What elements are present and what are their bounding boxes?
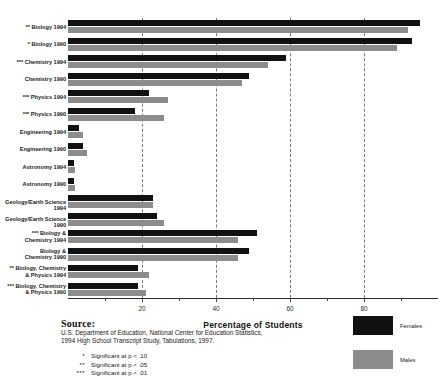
source-line-1: U.S. Department of Education, National C…: [61, 329, 341, 337]
legend-label-females: Females: [400, 323, 422, 329]
bar-females: [68, 90, 149, 96]
bar-males: [68, 167, 75, 173]
bar-females: [68, 230, 257, 236]
x-tick-minor: [290, 298, 291, 301]
bar-row: [68, 195, 438, 208]
bar-females: [68, 265, 138, 271]
bar-females: [68, 160, 74, 166]
bar-males: [68, 237, 238, 243]
plot-area: 20406080 Percentage of Students: [68, 18, 438, 298]
chart-container: ** Biology 1994* Biology 1990*** Chemist…: [0, 0, 445, 385]
x-tick-label: 40: [212, 305, 219, 312]
category-label: *** Chemistry 1994: [0, 59, 66, 65]
bar-row: [68, 90, 438, 103]
bar-males: [68, 150, 87, 156]
bar-row: [68, 143, 438, 156]
bar-males: [68, 62, 268, 68]
bar-row: [68, 283, 438, 296]
bar-males: [68, 185, 75, 191]
category-label: Engineering 1990: [0, 146, 66, 152]
note-mark: **: [61, 361, 85, 368]
bar-row: [68, 55, 438, 68]
category-label: *** Physics 1990: [0, 111, 66, 117]
category-label: ** Biology 1994: [0, 24, 66, 30]
legend-swatch-males-icon: [353, 350, 393, 369]
note-text: Significant at p < .05: [91, 361, 147, 368]
category-label: *** Biology, Chemistry & Physics 1990: [0, 283, 66, 296]
bar-males: [68, 27, 408, 33]
legend-label-males: Males: [400, 357, 415, 363]
bar-row: [68, 265, 438, 278]
bar-males: [68, 220, 164, 226]
bar-males: [68, 202, 153, 208]
x-tick-minor: [179, 298, 180, 301]
bar-males: [68, 255, 238, 261]
legend-swatch-females-icon: [353, 316, 393, 335]
category-label: Geology/Earth Science 1990: [0, 216, 66, 229]
bar-females: [68, 213, 157, 219]
note-mark: *: [61, 352, 85, 359]
bar-females: [68, 125, 79, 131]
category-label: Astronomy 1990: [0, 181, 66, 187]
category-label: Chemistry 1990: [0, 76, 66, 82]
bar-males: [68, 290, 146, 296]
bar-females: [68, 195, 153, 201]
x-tick-label: 80: [360, 305, 367, 312]
x-tick-minor: [364, 298, 365, 301]
x-tick-minor: [327, 298, 328, 301]
source-heading: Source:: [61, 318, 341, 329]
bar-row: [68, 248, 438, 261]
category-label: Biology & Chemistry 1990: [0, 248, 66, 261]
bar-row: [68, 73, 438, 86]
bar-row: [68, 160, 438, 173]
bar-females: [68, 108, 135, 114]
x-tick-minor: [142, 298, 143, 301]
x-tick-label: 20: [138, 305, 145, 312]
bar-row: [68, 108, 438, 121]
bar-males: [68, 80, 242, 86]
x-tick-minor: [401, 298, 402, 301]
note-row: **Significant at p < .05: [61, 361, 311, 370]
bar-males: [68, 132, 83, 138]
source-line-2: 1994 High School Transcript Study, Tabul…: [61, 337, 341, 345]
x-tick-minor: [253, 298, 254, 301]
category-label: *** Biology & Chemistry 1994: [0, 230, 66, 243]
bar-row: [68, 230, 438, 243]
note-row: *Significant at p < .10: [61, 352, 311, 361]
bar-females: [68, 20, 420, 26]
category-label: Geology/Earth Science 1994: [0, 199, 66, 212]
x-tick-minor: [105, 298, 106, 301]
x-tick-minor: [216, 298, 217, 301]
bar-females: [68, 143, 83, 149]
category-label: ** Biology, Chemistry & Physics 1994: [0, 265, 66, 278]
legend-item-females: Females: [353, 316, 422, 335]
bar-females: [68, 248, 249, 254]
category-label: Engineering 1994: [0, 129, 66, 135]
significance-notes: *Significant at p < .10**Significant at …: [61, 352, 311, 378]
bar-row: [68, 213, 438, 226]
note-text: Significant at p < .10: [91, 352, 147, 359]
note-text: Significant at p < .01: [91, 369, 147, 376]
x-tick-label: 60: [286, 305, 293, 312]
bar-males: [68, 272, 149, 278]
note-mark: ***: [61, 369, 85, 376]
bar-females: [68, 38, 412, 44]
category-label: * Biology 1990: [0, 41, 66, 47]
bar-females: [68, 55, 286, 61]
bar-row: [68, 38, 438, 51]
legend-item-males: Males: [353, 350, 415, 369]
bar-females: [68, 73, 249, 79]
bar-row: [68, 178, 438, 191]
bar-females: [68, 178, 74, 184]
bar-males: [68, 115, 164, 121]
category-label: *** Physics 1994: [0, 94, 66, 100]
bar-males: [68, 45, 397, 51]
bar-row: [68, 20, 438, 33]
category-label: Astronomy 1994: [0, 164, 66, 170]
bar-row: [68, 125, 438, 138]
bar-males: [68, 97, 168, 103]
bar-females: [68, 283, 138, 289]
note-row: ***Significant at p < .01: [61, 369, 311, 378]
source-block: Source: U.S. Department of Education, Na…: [61, 318, 341, 345]
